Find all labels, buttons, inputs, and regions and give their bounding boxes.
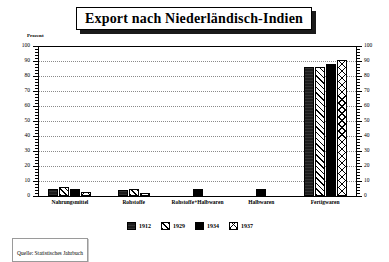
y-axis-tick [357, 166, 362, 167]
y-axis-minor-tick [35, 94, 38, 95]
y-axis-minor-tick [357, 142, 360, 143]
y-axis-minor-tick [35, 169, 38, 170]
legend-item-1912: 1912 [127, 222, 151, 230]
y-axis-minor-tick [357, 64, 360, 65]
y-axis-minor-tick [35, 127, 38, 128]
y-axis-minor-tick [357, 49, 360, 50]
y-axis-minor-tick [357, 160, 360, 161]
y-axis-tick-label: 80 [25, 73, 31, 79]
legend-label: 1929 [173, 223, 185, 229]
y-axis-minor-tick [35, 100, 38, 101]
legend-swatch-1912 [127, 222, 136, 230]
y-axis-tick-label: 20 [25, 163, 31, 169]
legend-label: 1934 [207, 223, 219, 229]
legend-label: 1912 [139, 223, 151, 229]
y-axis-tick-label: 40 [364, 133, 370, 139]
y-axis-tick [33, 91, 38, 92]
x-axis-category-label: Fertigwaren [293, 200, 357, 206]
y-axis-minor-tick [35, 109, 38, 110]
bar-1937-nahrungsmittel [81, 192, 91, 197]
y-axis-minor-tick [35, 154, 38, 155]
y-axis-minor-tick [35, 157, 38, 158]
y-axis-tick [33, 166, 38, 167]
y-axis-tick-label: 60 [364, 103, 370, 109]
y-axis-tick-label: 30 [25, 148, 31, 154]
legend-swatch-1937 [229, 222, 238, 230]
y-axis-unit-label: Prozent [27, 33, 44, 38]
y-axis-tick [33, 61, 38, 62]
legend-item-1929: 1929 [161, 222, 185, 230]
y-axis-minor-tick [357, 169, 360, 170]
y-axis-minor-tick [357, 193, 360, 194]
y-axis-minor-tick [35, 73, 38, 74]
y-axis-tick-label: 40 [25, 133, 31, 139]
y-axis-tick [33, 181, 38, 182]
y-axis-minor-tick [35, 118, 38, 119]
y-axis-tick [33, 121, 38, 122]
y-axis-tick [357, 136, 362, 137]
y-axis-minor-tick [357, 109, 360, 110]
y-axis-tick-label: 50 [25, 118, 31, 124]
bar-1912-rohstoffe [118, 190, 128, 196]
y-axis-minor-tick [357, 154, 360, 155]
y-axis-minor-tick [35, 103, 38, 104]
bar-1937-fertigwaren [337, 60, 347, 197]
y-axis-minor-tick [35, 163, 38, 164]
y-axis-minor-tick [35, 133, 38, 134]
y-axis-minor-tick [35, 67, 38, 68]
y-axis-tick [357, 46, 362, 47]
y-axis-minor-tick [35, 160, 38, 161]
y-axis-minor-tick [35, 88, 38, 89]
y-axis-tick-label: 10 [364, 178, 370, 184]
bar-1929-nahrungsmittel [59, 187, 69, 196]
y-axis-tick [33, 151, 38, 152]
y-axis-tick [33, 76, 38, 77]
y-axis-minor-tick [35, 187, 38, 188]
y-axis-tick-label: 60 [25, 103, 31, 109]
y-axis-minor-tick [357, 148, 360, 149]
y-axis-tick-label: 50 [364, 118, 370, 124]
source-box: Quelle: Statistisches Jahrbuch [12, 238, 88, 262]
y-axis-minor-tick [357, 163, 360, 164]
y-axis-minor-tick [357, 103, 360, 104]
y-axis-minor-tick [35, 115, 38, 116]
y-axis-tick [357, 121, 362, 122]
y-axis-tick-label: 70 [364, 88, 370, 94]
legend-item-1934: 1934 [195, 222, 219, 230]
y-axis-tick-label: 0 [27, 193, 30, 199]
y-axis-tick-label: 90 [364, 58, 370, 64]
source-label: Quelle: Statistisches Jahrbuch [17, 250, 83, 256]
y-axis-tick [357, 196, 362, 197]
y-axis-minor-tick [357, 127, 360, 128]
chart-title-box: Export nach Niederländisch-Indien [76, 7, 312, 30]
x-axis-line [38, 196, 357, 197]
legend-label: 1937 [241, 223, 253, 229]
chart-legend: 1912192919341937 [127, 220, 259, 231]
y-axis-minor-tick [35, 142, 38, 143]
y-axis-minor-tick [357, 73, 360, 74]
y-axis-minor-tick [357, 67, 360, 68]
gridline [39, 61, 356, 63]
y-axis-tick [357, 91, 362, 92]
y-axis-minor-tick [35, 148, 38, 149]
y-axis-minor-tick [35, 172, 38, 173]
y-axis-tick-label: 0 [364, 193, 367, 199]
bar-1934-fertigwaren [326, 64, 336, 196]
y-axis-minor-tick [35, 64, 38, 65]
x-axis-category-label: Halbwaren [229, 200, 293, 206]
y-axis-minor-tick [35, 49, 38, 50]
y-axis-tick [357, 61, 362, 62]
y-axis-tick-label: 100 [22, 43, 30, 49]
y-axis-minor-tick [357, 157, 360, 158]
y-axis-minor-tick [357, 178, 360, 179]
legend-item-1937: 1937 [229, 222, 253, 230]
y-axis-tick-label: 10 [25, 178, 31, 184]
bar-1937-rohstoffe [140, 193, 150, 196]
x-axis-category-label: Nahrungsmittel [38, 200, 102, 206]
y-axis-tick [33, 196, 38, 197]
y-axis-minor-tick [357, 58, 360, 59]
y-axis-minor-tick [357, 124, 360, 125]
y-axis-minor-tick [35, 112, 38, 113]
y-axis-tick-label: 100 [364, 43, 372, 49]
